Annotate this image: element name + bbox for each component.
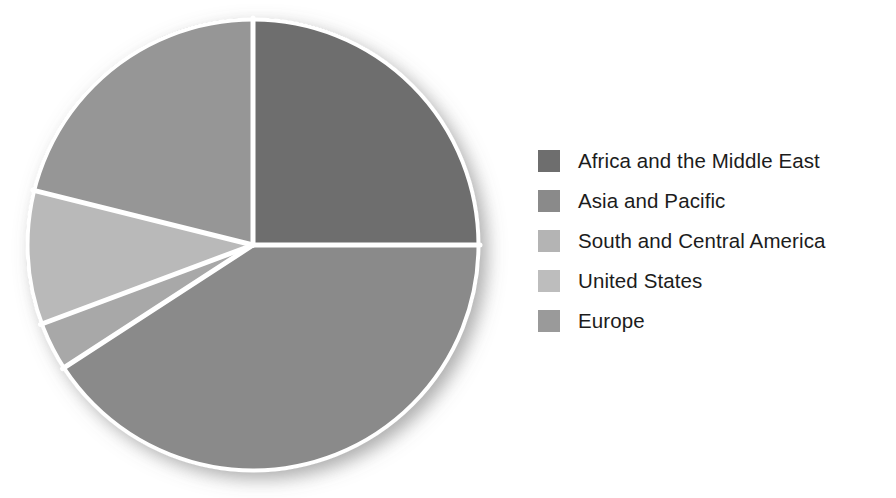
legend-item-label: United States (578, 271, 702, 292)
legend-item-asia-and-pacific[interactable]: Asia and Pacific (538, 181, 896, 221)
legend-item-united-states[interactable]: United States (538, 261, 896, 301)
legend-swatch-icon (538, 190, 560, 212)
legend-item-label: Europe (578, 311, 645, 332)
legend-swatch-icon (538, 150, 560, 172)
legend-swatch-icon (538, 230, 560, 252)
pie-chart-svg (0, 0, 520, 498)
legend-item-label: Africa and the Middle East (578, 151, 820, 172)
legend-swatch-icon (538, 270, 560, 292)
legend-item-africa-and-the-middle-east[interactable]: Africa and the Middle East (538, 141, 896, 181)
pie-chart-figure: Africa and the Middle East Asia and Paci… (0, 0, 896, 498)
legend-item-label: South and Central America (578, 231, 826, 252)
chart-legend: Africa and the Middle East Asia and Paci… (538, 141, 896, 341)
legend-item-europe[interactable]: Europe (538, 301, 896, 341)
pie-chart-area (0, 0, 520, 498)
legend-item-label: Asia and Pacific (578, 191, 725, 212)
legend-swatch-icon (538, 310, 560, 332)
legend-item-south-and-central-america[interactable]: South and Central America (538, 221, 896, 261)
